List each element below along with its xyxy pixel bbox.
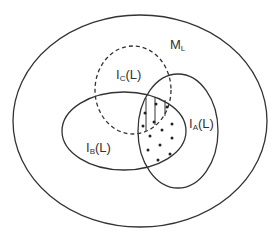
set-ib-boundary [62, 92, 186, 170]
label-ic: IC(L) [116, 68, 141, 83]
label-ib: IB(L) [86, 141, 111, 156]
set-ml-boundary [13, 15, 267, 227]
set-ic-boundary [95, 46, 171, 134]
label-ia: IA(L) [189, 117, 214, 132]
venn-diagram [0, 0, 280, 237]
hatch-region-ia-ib-ic [146, 97, 165, 131]
label-ml: ML [170, 38, 185, 53]
